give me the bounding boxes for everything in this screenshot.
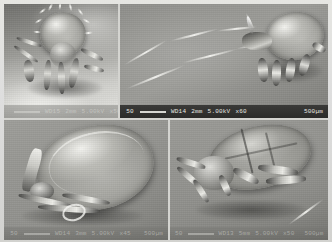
filament-strand (124, 39, 168, 66)
scale-value: 500µm (144, 230, 163, 237)
scale-infobar-top-left: WD15 2mm 5.00kV x50 500µm (4, 105, 118, 118)
scale-tick-label: 50 (125, 108, 135, 115)
scale-bar (24, 233, 50, 235)
seta (68, 4, 72, 12)
imaging-mode: 2mm (191, 108, 202, 115)
tick-body (262, 7, 327, 64)
working-distance: WD14 (171, 108, 186, 115)
tick-capitulum (242, 32, 272, 50)
working-distance: WD14 (55, 230, 70, 237)
specimen-field-bottom-left: 50 WD14 3mm 5.00kV x45 500µm (4, 120, 168, 240)
tick-leg (257, 58, 269, 83)
specimen-field-bottom-right: 50 WD13 5mm 5.00kV x50 500µm (170, 120, 328, 240)
scale-infobar-bottom-right: 50 WD13 5mm 5.00kV x50 500µm (170, 227, 328, 240)
panel-top-left[interactable]: WD15 2mm 5.00kV x50 500µm (4, 4, 118, 118)
filament-strand (126, 64, 186, 90)
seta (48, 4, 54, 11)
scale-tick-label: 50 (175, 230, 183, 237)
magnification: x60 (235, 108, 246, 115)
filament-strand (182, 48, 239, 64)
magnification: x50 (283, 230, 294, 237)
seta (84, 32, 93, 35)
panel-divider-top (118, 4, 120, 118)
seta (77, 8, 84, 16)
panel-bottom-left[interactable]: 50 WD14 3mm 5.00kV x45 500µm (4, 120, 168, 240)
seta (59, 4, 62, 10)
accelerating-voltage: 5.00kV (82, 108, 105, 115)
tick-leg (84, 64, 105, 74)
scale-bar (14, 111, 40, 113)
tick-leg (272, 60, 282, 86)
scale-bar (188, 233, 214, 235)
imaging-mode: 3mm (75, 230, 86, 237)
scale-bar (140, 111, 166, 113)
panel-top-right[interactable]: 50 WD14 2mm 5.00kV x60 500µm (120, 4, 328, 118)
micrograph-grid: WD15 2mm 5.00kV x50 500µm (4, 4, 328, 240)
tick-leg (23, 59, 36, 82)
panel-divider-horizontal (4, 118, 328, 120)
panel-bottom-right[interactable]: 50 WD13 5mm 5.00kV x50 500µm (170, 120, 328, 240)
accelerating-voltage: 5.00kV (255, 230, 278, 237)
tick-leg (16, 36, 42, 48)
imaging-mode: 5mm (239, 230, 250, 237)
seta (33, 31, 41, 34)
accelerating-voltage: 5.00kV (92, 230, 115, 237)
magnification: x45 (119, 230, 130, 237)
tick-leg (80, 47, 104, 62)
magnification: x50 (109, 108, 118, 115)
sem-composite-plate: WD15 2mm 5.00kV x50 500µm (0, 0, 332, 242)
scale-infobar-top-right: 50 WD14 2mm 5.00kV x60 500µm (120, 105, 328, 118)
specimen-shadow (196, 200, 306, 220)
working-distance: WD15 (45, 108, 60, 115)
scale-value: 500µm (304, 230, 323, 237)
scale-infobar-bottom-left: 50 WD14 3mm 5.00kV x45 500µm (4, 227, 168, 240)
accelerating-voltage: 5.00kV (208, 108, 231, 115)
imaging-mode: 2mm (65, 108, 76, 115)
seta (38, 7, 46, 14)
scale-value: 500µm (304, 108, 323, 115)
scale-tick-label: 50 (9, 230, 19, 237)
working-distance: WD13 (219, 230, 234, 237)
panel-divider-bottom (168, 120, 170, 240)
specimen-field-top-right: 50 WD14 2mm 5.00kV x60 500µm (120, 4, 328, 118)
specimen-field-top-left: WD15 2mm 5.00kV x50 500µm (4, 4, 118, 118)
filament-strand (170, 28, 219, 42)
